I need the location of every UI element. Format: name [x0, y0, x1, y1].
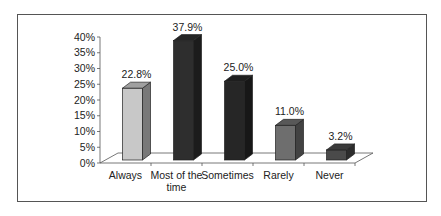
bar-front — [327, 150, 347, 160]
category-label: Rarely — [263, 169, 294, 181]
bar-side — [194, 35, 202, 160]
y-tick-label: 5% — [80, 141, 95, 153]
y-tick-label: 20% — [74, 94, 95, 106]
y-tick-label: 35% — [74, 46, 95, 58]
data-label: 22.8% — [122, 68, 152, 80]
bar-most-of-the-time — [174, 35, 202, 160]
data-label: 25.0% — [224, 61, 254, 73]
bar-never — [327, 144, 355, 160]
bar-always — [123, 82, 151, 160]
bars — [123, 35, 355, 160]
bar-front — [276, 125, 296, 160]
category-label: Never — [315, 169, 344, 181]
category-label: Always — [109, 169, 142, 181]
axes: 0%5%10%15%20%25%30%35%40% — [74, 31, 373, 169]
y-tick-label: 25% — [74, 78, 95, 90]
bar-side — [245, 75, 253, 160]
bar-front — [174, 41, 194, 160]
y-tick-label: 10% — [74, 125, 95, 137]
bar-sometimes — [225, 75, 253, 160]
y-tick-label: 40% — [74, 31, 95, 43]
bar-rarely — [276, 119, 304, 160]
data-label: 3.2% — [329, 130, 353, 142]
category-label: Most of the — [151, 169, 203, 181]
category-label: time — [167, 181, 187, 193]
y-tick-label: 15% — [74, 109, 95, 121]
data-label: 37.9% — [173, 21, 203, 33]
bar-chart: 0%5%10%15%20%25%30%35%40% 22.8%Always37.… — [0, 0, 441, 216]
category-label: Sometimes — [201, 169, 254, 181]
y-tick-label: 0% — [80, 157, 95, 169]
bar-front — [225, 81, 245, 160]
y-tick-label: 30% — [74, 62, 95, 74]
data-label: 11.0% — [275, 105, 304, 117]
bar-side — [143, 82, 151, 160]
bar-side — [296, 119, 304, 160]
bar-front — [123, 88, 143, 160]
